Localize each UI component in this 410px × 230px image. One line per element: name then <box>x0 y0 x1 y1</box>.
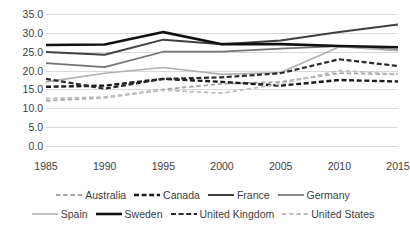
legend-label: Canada <box>163 190 200 201</box>
legend-swatch-icon <box>32 209 58 219</box>
legend-label: France <box>237 190 270 201</box>
legend-swatch-icon <box>282 209 308 219</box>
legend-label: United States <box>311 209 374 220</box>
legend-item-germany[interactable]: Germany <box>278 190 350 201</box>
legend-item-spain[interactable]: Spain <box>32 209 88 220</box>
y-tick-label: 35.0 <box>23 9 43 20</box>
chart-legend: AustraliaCanadaFranceGermany SpainSweden… <box>0 184 406 230</box>
legend-label: Australia <box>85 190 126 201</box>
series-line-germany <box>46 46 398 67</box>
x-tick-label: 1990 <box>93 160 116 172</box>
plot-area <box>46 14 398 146</box>
legend-label: Germany <box>307 190 350 201</box>
legend-item-canada[interactable]: Canada <box>134 190 200 201</box>
x-axis: 1985199019952000200520102015 <box>46 160 398 180</box>
plot-wrapper: 0.05.010.015.020.025.030.035.0 <box>0 0 406 160</box>
series-line-sweden <box>46 32 398 47</box>
y-tick-label: 10.0 <box>23 103 43 114</box>
legend-item-australia[interactable]: Australia <box>56 190 126 201</box>
legend-item-united-kingdom[interactable]: United Kingdom <box>171 209 275 220</box>
legend-swatch-icon <box>278 190 304 200</box>
series-line-france <box>46 25 398 55</box>
y-tick-label: 5.0 <box>28 122 43 133</box>
legend-swatch-icon <box>208 190 234 200</box>
y-tick-label: 25.0 <box>23 46 43 57</box>
legend-item-sweden[interactable]: Sweden <box>96 209 163 220</box>
legend-item-france[interactable]: France <box>208 190 270 201</box>
legend-swatch-icon <box>171 209 197 219</box>
y-tick-label: 15.0 <box>23 84 43 95</box>
legend-swatch-icon <box>134 190 160 200</box>
series-line-canada <box>46 79 398 87</box>
x-tick-label: 2010 <box>328 160 351 172</box>
legend-label: United Kingdom <box>200 209 275 220</box>
y-tick-label: 0.0 <box>28 141 43 152</box>
legend-label: Spain <box>61 209 88 220</box>
x-tick-label: 2005 <box>269 160 292 172</box>
x-tick-label: 1995 <box>152 160 175 172</box>
x-tick-label: 1985 <box>34 160 57 172</box>
y-axis: 0.05.010.015.020.025.030.035.0 <box>0 0 46 160</box>
legend-row-2: SpainSwedenUnited KingdomUnited States <box>0 205 406 223</box>
gridline <box>46 146 398 147</box>
y-tick-label: 30.0 <box>23 28 43 39</box>
legend-swatch-icon <box>96 209 122 219</box>
x-tick-label: 2015 <box>386 160 409 172</box>
legend-row-1: AustraliaCanadaFranceGermany <box>0 186 406 204</box>
x-tick-label: 2000 <box>210 160 233 172</box>
legend-item-united-states[interactable]: United States <box>282 209 374 220</box>
legend-swatch-icon <box>56 190 82 200</box>
y-tick-label: 20.0 <box>23 65 43 76</box>
series-layer <box>46 14 398 146</box>
legend-label: Sweden <box>125 209 163 220</box>
